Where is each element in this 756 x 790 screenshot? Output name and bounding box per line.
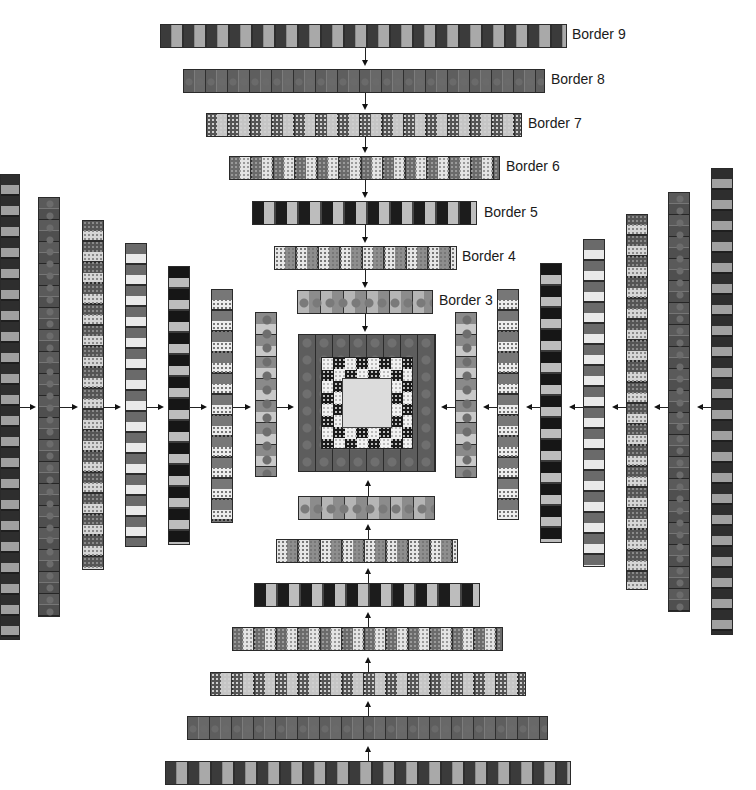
border-7-label: Border 7 [528,115,582,131]
arrow-line [368,705,369,716]
border-6-left-strip [125,243,147,547]
border-6-top-strip [229,156,500,180]
border-3-left-strip [255,312,277,477]
arrow-line [368,750,369,761]
border-9-left-strip [0,174,20,640]
border-6-right-strip [583,239,605,567]
border-3-bottom-strip [298,496,435,520]
arrow-line [658,407,668,408]
arrow-right-icon [288,404,294,410]
border-4-right-strip [497,289,519,520]
arrow-line [530,407,540,408]
border-3-top-strip [297,290,433,314]
border-5-top-strip [252,201,477,225]
arrow-line [701,407,711,408]
arrow-line [445,407,455,408]
arrow-line [573,407,583,408]
arrow-down-icon [362,147,368,153]
border-3-right-strip [455,312,477,478]
border-4-left-strip [211,289,233,523]
border-8-top-strip [183,69,545,93]
border-5-bottom-strip [254,583,480,607]
arrow-right-icon [201,404,207,410]
border-5-right-strip [540,263,562,543]
border-4-top-strip [274,246,457,270]
border-7-right-strip [626,214,648,590]
arrow-line [368,661,369,672]
arrow-down-icon [362,237,368,243]
border-5-left-strip [168,266,190,545]
border-8-label: Border 8 [551,71,605,87]
border-3-label: Border 3 [439,292,493,308]
border-8-right-strip [668,192,690,612]
border-4-bottom-strip [276,539,458,563]
border-7-left-strip [82,220,104,570]
arrow-down-icon [362,326,368,332]
border-9-top-strip [160,24,567,48]
arrow-right-icon [30,404,36,410]
arrow-down-icon [362,192,368,198]
arrow-down-icon [362,282,368,288]
arrow-down-icon [362,104,368,110]
border-6-bottom-strip [232,627,503,651]
border-6-label: Border 6 [506,158,560,174]
border-7-top-strip [206,113,522,137]
arrow-line [616,407,626,408]
arrow-line [487,407,497,408]
border-5-label: Border 5 [484,204,538,220]
border-8-bottom-strip [187,716,548,740]
arrow-line [368,616,369,627]
border-9-label: Border 9 [572,26,626,42]
border-8-left-strip [38,197,60,617]
arrow-right-icon [245,404,251,410]
arrow-right-icon [72,404,78,410]
border-9-right-strip [711,168,733,635]
arrow-right-icon [115,404,121,410]
center-square [342,378,392,428]
arrow-right-icon [158,404,164,410]
arrow-down-icon [362,60,368,66]
border-4-label: Border 4 [462,248,516,264]
arrow-line [368,528,369,539]
border-9-bottom-strip [165,761,571,785]
quilt-center-block [298,334,436,472]
arrow-line [368,572,369,583]
border-7-bottom-strip [210,672,526,696]
arrow-line [368,484,369,496]
